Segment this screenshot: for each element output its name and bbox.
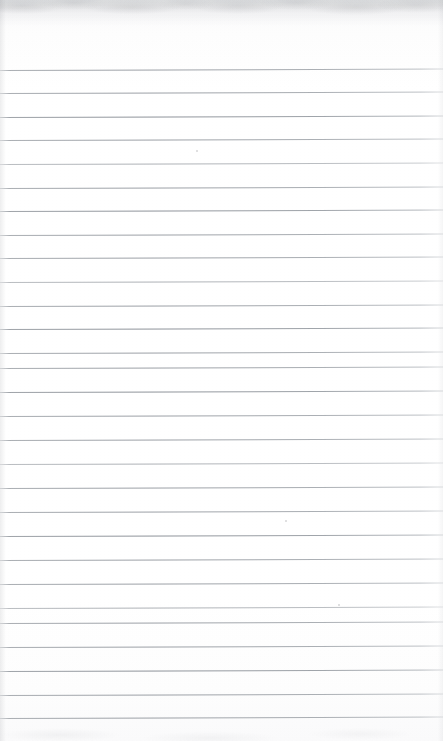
scanned-page — [0, 0, 443, 741]
paper-background — [0, 0, 443, 741]
